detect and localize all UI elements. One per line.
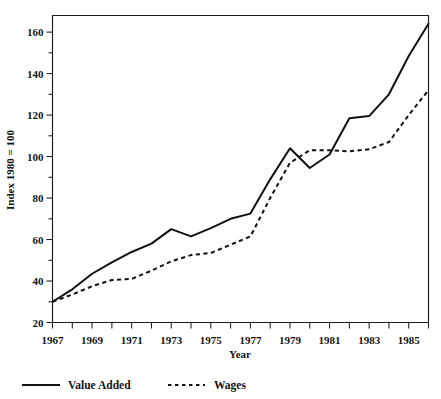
line-chart-figure: 20406080100120140160 1967196919711973197… — [0, 0, 441, 399]
y-tick-label: 100 — [27, 151, 44, 163]
y-tick-label: 60 — [33, 234, 45, 246]
y-tick-label: 20 — [33, 317, 45, 329]
x-tick-label: 1979 — [279, 334, 302, 346]
chart-svg: 20406080100120140160 1967196919711973197… — [0, 0, 441, 399]
y-tick-label: 80 — [33, 192, 45, 204]
y-axis-title: Index 1980 = 100 — [4, 130, 16, 210]
y-tick-label: 140 — [27, 68, 44, 80]
x-tick-label: 1967 — [42, 334, 65, 346]
x-tick-label: 1969 — [81, 334, 104, 346]
legend-label-wages: Wages — [214, 379, 246, 392]
y-tick-label: 160 — [27, 26, 44, 38]
y-tick-label: 40 — [33, 275, 45, 287]
x-tick-label: 1973 — [160, 334, 183, 346]
y-tick-label: 120 — [27, 109, 44, 121]
x-tick-label: 1983 — [358, 334, 381, 346]
x-tick-label: 1981 — [319, 334, 341, 346]
legend-label-value-added: Value Added — [68, 379, 131, 391]
x-axis-title: Year — [229, 348, 251, 360]
x-tick-label: 1977 — [239, 334, 262, 346]
x-tick-label: 1985 — [398, 334, 421, 346]
x-tick-label: 1975 — [200, 334, 223, 346]
x-tick-label: 1971 — [121, 334, 143, 346]
